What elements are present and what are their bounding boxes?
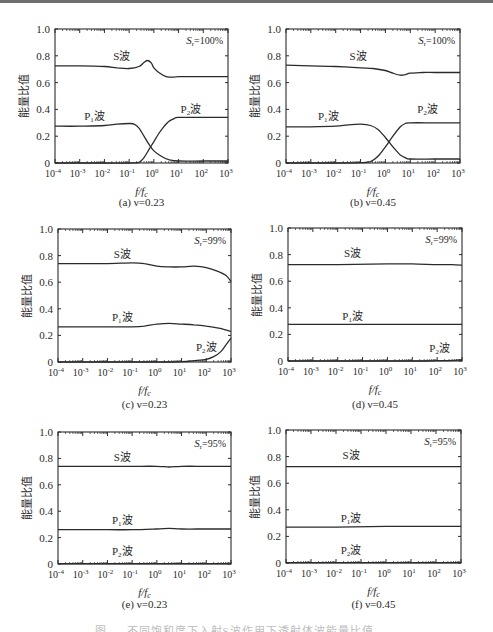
x-tick-label: 101 [173, 366, 187, 378]
x-tick-label: 10-4 [48, 366, 64, 378]
series-line-P1波 [286, 526, 461, 527]
x-tick-label: 10-1 [351, 167, 367, 179]
x-tick-label: 10-1 [122, 568, 138, 580]
series-line-S波 [55, 60, 228, 77]
plot-frame [286, 29, 460, 163]
y-tick-label: 0.2 [267, 130, 281, 142]
series-label: P1波 [342, 310, 363, 324]
x-tick-label: 10-3 [303, 365, 319, 377]
y-tick-label: 0.2 [267, 530, 281, 542]
x-tick-label: 10-2 [95, 167, 111, 179]
x-tick-label: 10-3 [301, 567, 317, 579]
series-line-S波 [286, 65, 460, 75]
series-label: P2波 [417, 103, 438, 117]
x-tick-label: 10-4 [45, 167, 61, 179]
y-tick-label: 0.6 [39, 479, 53, 491]
x-tick-label: 102 [198, 366, 212, 378]
y-axis-label: 能量比值 [248, 475, 261, 519]
x-tick-label: 101 [402, 567, 416, 579]
y-axis-label: 能量比值 [248, 74, 261, 118]
x-tick-label: 100 [145, 167, 159, 179]
y-tick-label: 1.0 [36, 23, 50, 35]
x-tick-label: 10-1 [353, 365, 369, 377]
series-label: S波 [114, 248, 131, 261]
series-label: P2波 [196, 341, 217, 355]
x-tick-label: 102 [428, 365, 442, 377]
y-tick-label: 0.4 [269, 302, 283, 314]
x-tick-label: 10-4 [276, 167, 292, 179]
y-tick-label: 0.8 [39, 452, 53, 464]
chart-panel-e: 00.20.40.60.81.010-410-310-210-110010110… [20, 426, 236, 611]
x-tick-label: 101 [402, 167, 416, 179]
y-tick-label: 0.6 [36, 77, 50, 89]
chart-panel-a: 00.20.40.60.81.010-410-310-210-110010110… [17, 23, 233, 209]
plot-frame [288, 228, 462, 361]
y-tick-label: 0.4 [39, 505, 53, 517]
y-tick-label: 0.2 [39, 329, 53, 341]
x-tick-label: 100 [377, 567, 391, 579]
x-tick-label: 101 [404, 365, 418, 377]
x-tick-label: 103 [451, 167, 465, 179]
y-axis-label: 能量比值 [17, 74, 30, 118]
panel-caption: (e) ν=0.23 [122, 598, 168, 611]
y-axis-label: 能量比值 [20, 274, 33, 318]
saturation-annotation: Sr=95% [424, 435, 456, 449]
x-tick-label: 10-3 [70, 167, 86, 179]
x-tick-label: 100 [379, 365, 393, 377]
saturation-annotation: Sr=95% [194, 437, 226, 451]
y-tick-label: 0.6 [39, 276, 53, 288]
y-tick-label: 1.0 [267, 424, 281, 436]
series-line-S波 [288, 264, 462, 265]
x-tick-label: 101 [170, 167, 184, 179]
y-tick-label: 0.6 [269, 275, 283, 287]
series-label: S波 [114, 451, 131, 464]
series-line-P1波 [286, 124, 460, 159]
x-tick-label: 103 [219, 167, 233, 179]
series-label: P1波 [112, 514, 133, 528]
y-tick-label: 0.6 [267, 77, 281, 89]
x-tick-label: 102 [426, 167, 440, 179]
series-label: S波 [113, 50, 130, 63]
x-tick-label: 10-2 [98, 366, 114, 378]
series-label: P2波 [181, 103, 202, 117]
series-label: S波 [344, 247, 361, 260]
y-tick-label: 0.4 [267, 103, 281, 115]
series-line-P1波 [58, 323, 231, 331]
figure-canvas: 00.20.40.60.81.010-410-310-210-110010110… [0, 0, 493, 632]
y-tick-label: 1.0 [39, 426, 53, 438]
series-label: S波 [342, 449, 359, 462]
y-tick-label: 0.6 [267, 477, 281, 489]
x-tick-label: 10-2 [326, 567, 342, 579]
y-tick-label: 1.0 [269, 222, 283, 234]
y-tick-label: 0.4 [267, 504, 281, 516]
y-tick-label: 0.8 [39, 250, 53, 262]
y-tick-label: 0.8 [269, 249, 283, 261]
series-label: P2波 [429, 342, 450, 356]
x-tick-label: 10-1 [351, 567, 367, 579]
x-tick-label: 103 [453, 365, 467, 377]
series-label: P1波 [318, 110, 339, 124]
x-axis-label: f/fc [369, 383, 382, 397]
x-tick-label: 10-2 [98, 568, 114, 580]
series-label: P1波 [112, 311, 133, 325]
plot-frame [55, 29, 228, 163]
y-tick-label: 0.4 [36, 103, 50, 115]
panel-caption: (d) ν=0.45 [352, 398, 399, 411]
series-label: S波 [350, 50, 367, 63]
x-tick-label: 10-3 [73, 366, 89, 378]
chart-panel-f: 00.20.40.60.81.010-410-310-210-110010110… [248, 424, 466, 611]
y-tick-label: 1.0 [39, 223, 53, 235]
x-tick-label: 10-4 [278, 365, 294, 377]
x-axis-label: f/fc [367, 585, 380, 599]
y-tick-label: 0.2 [269, 328, 283, 340]
saturation-annotation: Sr=100% [418, 34, 455, 48]
saturation-annotation: Sr=99% [194, 234, 226, 248]
y-tick-label: 1.0 [267, 23, 281, 35]
figure-caption-partial: 图 … 不同饱和度下入射S波作用下透射体波能量比值 [95, 622, 405, 632]
series-line-P2波 [55, 117, 228, 163]
x-tick-label: 10-1 [122, 366, 138, 378]
y-axis-label: 能量比值 [250, 273, 263, 317]
x-axis-label: f/fc [138, 384, 151, 398]
series-line-S波 [58, 466, 231, 467]
panel-caption: (a) ν=0.23 [119, 196, 165, 209]
